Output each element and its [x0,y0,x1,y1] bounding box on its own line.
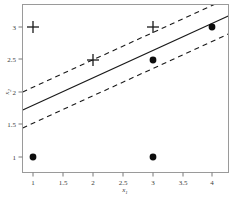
x-tick-label-2: 2 [91,179,95,187]
x-tick-label-4: 4 [210,179,214,187]
plot-background [0,0,239,197]
scatter-plot-svg: 1 1.5 2 2.5 3 3.5 4 1 1.5 2 2.5 3 x1 [0,0,239,197]
x-tick-label-1: 1 [31,179,35,187]
marker-filled-circle-icon [209,24,216,31]
y-tick-label-3: 3 [13,24,17,32]
x-axis-title-subscript: 1 [125,190,128,195]
marker-filled-circle-icon [150,154,157,161]
y-tick-label-1-5: 1.5 [7,121,16,129]
y-tick-label-2: 2 [13,89,17,97]
y-tick-label-1: 1 [13,154,17,162]
x-tick-label-3: 3 [151,179,155,187]
x-tick-label-3-5: 3.5 [179,179,188,187]
figure-container: 1 1.5 2 2.5 3 3.5 4 1 1.5 2 2.5 3 x1 [0,0,239,197]
x-tick-label-1-5: 1.5 [59,179,68,187]
y-tick-label-2-5: 2.5 [7,56,16,64]
marker-filled-circle-icon [150,57,157,64]
marker-filled-circle-icon [30,154,37,161]
